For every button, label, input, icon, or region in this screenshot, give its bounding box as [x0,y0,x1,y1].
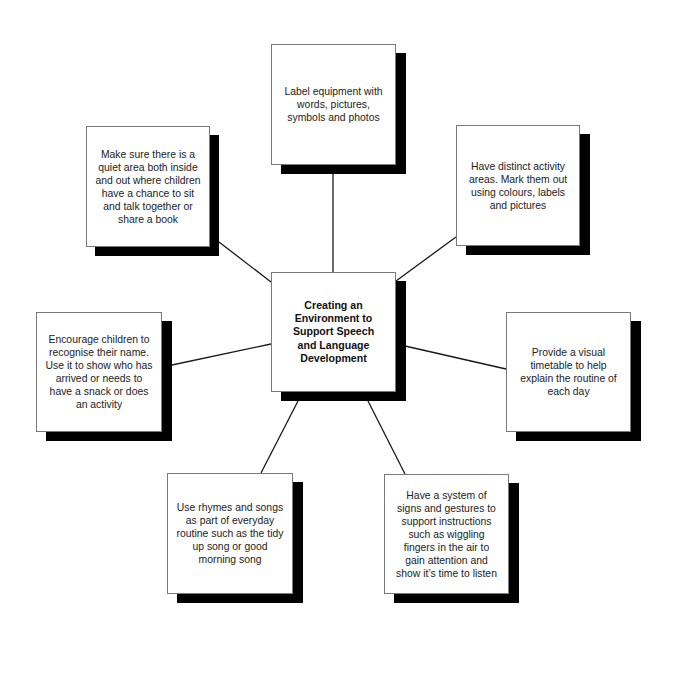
node-top-left-text: Make sure there is a quiet area both ins… [93,148,203,226]
center-node-text: Creating an Environment to Support Speec… [291,299,377,365]
node-top-right-text: Have distinct activity areas. Mark them … [464,160,572,212]
connector-bottom-right [368,401,405,474]
node-right: Provide a visual timetable to help expla… [506,312,631,432]
node-bottom-left: Use rhymes and songs as part of everyday… [167,473,293,594]
connector-left [172,344,271,365]
node-top-left: Make sure there is a quiet area both ins… [86,126,210,247]
connector-top-right [396,237,456,281]
node-top-text: Label equipment with words, pictures, sy… [282,85,386,124]
node-right-text: Provide a visual timetable to help expla… [517,346,621,398]
node-left: Encourage children to recognise their na… [36,312,162,432]
node-top: Label equipment with words, pictures, sy… [271,44,396,165]
node-left-text: Encourage children to recognise their na… [43,333,155,411]
node-bottom-left-text: Use rhymes and songs as part of everyday… [174,501,286,566]
connector-top-left [219,242,271,282]
node-bottom-right: Have a system of signs and gestures to s… [384,474,509,594]
node-bottom-right-text: Have a system of signs and gestures to s… [396,489,498,580]
center-node: Creating an Environment to Support Speec… [271,272,396,392]
mind-map-diagram: Label equipment with words, pictures, sy… [0,0,678,684]
node-top-right: Have distinct activity areas. Mark them … [456,125,580,246]
connector-bottom-left [261,401,298,473]
connector-right [405,346,506,369]
